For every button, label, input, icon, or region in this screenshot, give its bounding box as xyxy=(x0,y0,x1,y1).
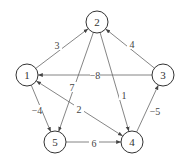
edge-5-4: 6 xyxy=(66,138,121,149)
edge-2-4: 1 xyxy=(100,33,129,132)
node-4: 4 xyxy=(121,131,143,153)
edge-line xyxy=(100,33,129,132)
edge-weight-label: −8 xyxy=(90,70,101,81)
node-label: 3 xyxy=(160,69,166,81)
edge-weight-label: 3 xyxy=(55,40,60,51)
node-1: 1 xyxy=(16,64,38,86)
node-label: 4 xyxy=(129,136,135,148)
node-label: 2 xyxy=(94,16,100,28)
edge-weight-label: 1 xyxy=(122,90,127,101)
edge-3-2: 4 xyxy=(106,29,155,68)
edges: 34−8712−46−5 xyxy=(31,29,160,149)
edge-1-5: −4 xyxy=(31,85,51,132)
node-label: 5 xyxy=(52,136,58,148)
edge-1-2: 3 xyxy=(36,29,88,69)
edge-4-3: −5 xyxy=(137,85,161,132)
nodes: 12345 xyxy=(16,11,174,153)
node-label: 1 xyxy=(24,69,30,81)
edge-weight-label: 2 xyxy=(77,104,82,115)
edge-weight-label: 7 xyxy=(70,82,75,93)
edge-weight-label: 6 xyxy=(92,138,97,149)
edge-3-1: −8 xyxy=(38,70,152,81)
node-5: 5 xyxy=(44,131,66,153)
edge-weight-label: 4 xyxy=(130,39,135,50)
graph-diagram: 34−8712−46−5 12345 xyxy=(0,0,187,165)
edge-weight-label: −4 xyxy=(32,105,43,116)
node-2: 2 xyxy=(86,11,108,33)
edge-weight-label: −5 xyxy=(150,106,161,117)
node-3: 3 xyxy=(152,64,174,86)
